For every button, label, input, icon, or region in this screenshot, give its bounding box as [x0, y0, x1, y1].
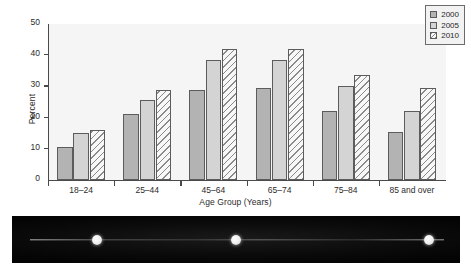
y-tick-label-30: 30 — [31, 79, 40, 89]
bar-2000-25–44 — [123, 114, 139, 180]
bar-2010-65–74 — [288, 49, 304, 180]
bar-2000-75–84 — [322, 111, 338, 180]
x-tick-mark-start — [48, 181, 49, 186]
y-tick-20: 20 — [19, 117, 49, 118]
y-tick-label-10: 10 — [31, 142, 40, 152]
bar-2005-75–84 — [338, 86, 354, 180]
bar-2000-45–64 — [189, 90, 205, 180]
legend-item-2005[interactable]: 2005 — [430, 20, 459, 30]
bar-2005-65–74 — [272, 60, 288, 180]
bar-chart: Percent 0 10 20 30 40 50 — [0, 0, 471, 208]
y-tick-0: 0 — [19, 179, 49, 180]
y-tick-30: 30 — [19, 85, 49, 86]
x-category-label-0: 18–24 — [48, 185, 114, 195]
y-tick-10: 10 — [19, 148, 49, 149]
bar-2005-25–44 — [140, 100, 156, 180]
x-category-label-3: 65–74 — [247, 185, 313, 195]
bar-2010-85-and-over — [420, 88, 436, 180]
y-tick-label-0: 0 — [35, 173, 40, 183]
figure-container: Percent 0 10 20 30 40 50 — [0, 0, 471, 269]
y-tick-50: 50 — [19, 23, 49, 24]
bar-2000-65–74 — [256, 88, 272, 180]
scan-dot-left — [92, 235, 102, 245]
legend-label-2000: 2000 — [441, 10, 459, 19]
x-category-label-4: 75–84 — [313, 185, 379, 195]
bar-2005-45–64 — [206, 60, 222, 180]
bar-2010-45–64 — [222, 49, 238, 180]
x-category-label-2: 45–64 — [180, 185, 246, 195]
x-axis-title: Age Group (Years) — [0, 197, 471, 207]
y-tick-label-20: 20 — [31, 111, 40, 121]
legend-label-2005: 2005 — [441, 21, 459, 30]
legend-swatch-2000-icon — [430, 11, 437, 18]
legend-swatch-2010-icon — [430, 32, 437, 39]
y-tick-label-40: 40 — [31, 48, 40, 58]
legend-item-2010[interactable]: 2010 — [430, 31, 459, 41]
y-tick-label-50: 50 — [31, 17, 40, 27]
plot-area: Percent 0 10 20 30 40 50 — [48, 24, 446, 181]
y-tick-40: 40 — [19, 54, 49, 55]
bar-2005-85-and-over — [404, 111, 420, 180]
bar-2010-75–84 — [354, 75, 370, 180]
chart-legend: 2000 2005 2010 — [425, 5, 465, 45]
bar-2010-25–44 — [156, 90, 172, 180]
x-category-label-1: 25–44 — [114, 185, 180, 195]
legend-swatch-2005-icon — [430, 22, 437, 29]
scanner-strip — [12, 216, 460, 263]
bar-2000-85-and-over — [388, 132, 404, 180]
bars-layer — [49, 24, 446, 180]
scan-dot-right — [424, 235, 434, 245]
legend-item-2000[interactable]: 2000 — [430, 10, 459, 20]
legend-label-2010: 2010 — [441, 31, 459, 40]
y-axis-title: Percent — [27, 64, 37, 154]
scan-dot-center — [231, 235, 241, 245]
bar-2010-18–24 — [90, 130, 106, 180]
bar-2000-18–24 — [57, 147, 73, 180]
bar-2005-18–24 — [73, 133, 89, 180]
x-category-label-5: 85 and over — [379, 185, 445, 195]
